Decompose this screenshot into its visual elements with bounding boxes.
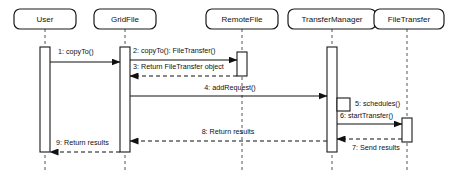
message-label-8: 8: Return results [202, 127, 255, 136]
message-4[interactable]: 4: addRequest() [130, 83, 327, 96]
message-label-9: 9: Return results [56, 138, 109, 147]
participant-label-gridfile: GridFile [111, 15, 140, 24]
message-label-5: 5: schedules() [355, 99, 400, 108]
self-call-box-5 [337, 98, 350, 111]
message-9[interactable]: 9: Return results [50, 138, 120, 152]
message-8[interactable]: 8: Return results [130, 127, 327, 141]
message-2[interactable]: 2: copyTo(): FileTransfer() [130, 46, 237, 60]
sequence-diagram-canvas: UserGridFileRemoteFileTransferManagerFil… [0, 0, 472, 181]
participant-gridfile[interactable]: GridFile [94, 9, 156, 172]
participant-label-transfermanager: TransferManager [301, 15, 362, 24]
participant-user[interactable]: User [14, 9, 76, 172]
participant-label-remotefile: RemoteFile [222, 15, 263, 24]
activation-bar-filetransfer [402, 118, 412, 142]
participant-label-filetransfer: FileTransfer [388, 15, 431, 24]
activation-bar-user [40, 47, 50, 152]
message-label-3: 3: Return FileTransfer object [133, 62, 224, 71]
activation-bar-remotefile [237, 52, 247, 76]
message-label-4: 4: addRequest() [204, 83, 256, 92]
message-label-2: 2: copyTo(): FileTransfer() [133, 46, 215, 55]
sequence-diagram-svg: UserGridFileRemoteFileTransferManagerFil… [0, 0, 472, 181]
participant-label-user: User [37, 15, 54, 24]
message-label-7: 7: Send results [352, 143, 400, 152]
message-5[interactable]: 5: schedules() [337, 98, 400, 111]
activation-bar-gridfile [120, 47, 130, 152]
message-1[interactable]: 1: copyTo() [50, 47, 120, 62]
message-label-6: 6: startTransfer() [340, 111, 393, 120]
message-6[interactable]: 6: startTransfer() [337, 111, 402, 124]
message-3[interactable]: 3: Return FileTransfer object [130, 62, 237, 76]
message-7[interactable]: 7: Send results [337, 139, 402, 152]
messages-layer: 1: copyTo()2: copyTo(): FileTransfer()3:… [50, 46, 402, 152]
activation-bar-transfermanager [327, 47, 337, 152]
message-label-1: 1: copyTo() [58, 47, 94, 56]
